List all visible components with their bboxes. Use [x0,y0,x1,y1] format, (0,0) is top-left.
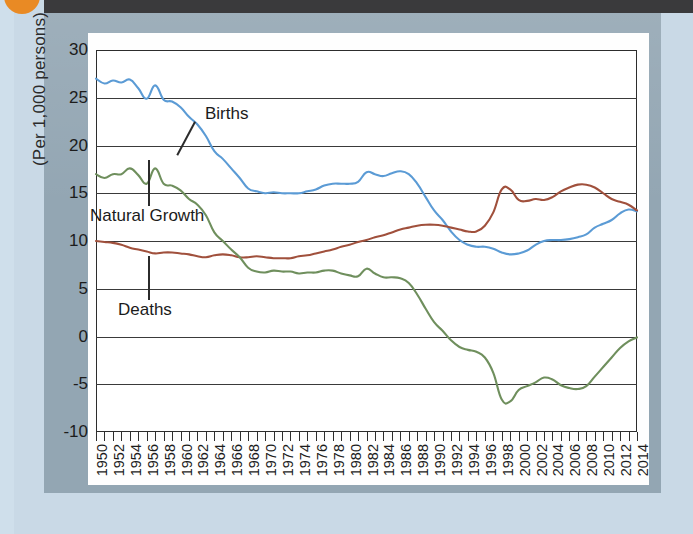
x-tick-mark-2006 [569,432,570,441]
x-tick-label-1992: 1992 [449,444,465,476]
x-tick-mark-1996 [485,432,486,441]
x-tick-mark-2004 [552,432,553,441]
x-tick-mark-1987 [409,432,410,441]
x-tick-mark-1985 [392,432,393,441]
x-tick-label-1984: 1984 [381,444,397,476]
x-tick-mark-1961 [189,432,190,441]
x-tick-mark-1982 [367,432,368,441]
x-tick-mark-1981 [358,432,359,441]
x-tick-mark-1965 [223,432,224,441]
x-tick-mark-1968 [248,432,249,441]
x-tick-label-2006: 2006 [567,444,583,476]
x-tick-mark-1975 [307,432,308,441]
x-tick-label-1970: 1970 [263,444,279,476]
x-tick-label-2004: 2004 [550,444,566,476]
annotation-natural-growth: Natural Growth [90,206,204,226]
x-tick-mark-1972 [282,432,283,441]
x-tick-label-1958: 1958 [162,444,178,476]
x-tick-mark-1978 [333,432,334,441]
x-tick-mark-2003 [544,432,545,441]
x-tick-label-1988: 1988 [415,444,431,476]
x-tick-mark-2012 [620,432,621,441]
x-tick-label-1962: 1962 [195,444,211,476]
series-line-natural-growth [96,168,637,403]
y-tick--10: -10 [63,422,88,442]
x-tick-mark-2000 [519,432,520,441]
x-tick-mark-1954 [130,432,131,441]
annotation-growth-leader [148,160,150,206]
x-tick-mark-1971 [274,432,275,441]
x-axis-ticks: 1950195219541956195819601962196419661968… [96,432,637,442]
x-tick-mark-1989 [426,432,427,441]
x-tick-mark-1959 [172,432,173,441]
x-tick-label-1966: 1966 [229,444,245,476]
x-tick-label-1980: 1980 [348,444,364,476]
y-tick-5: 5 [79,279,88,299]
x-tick-label-1986: 1986 [398,444,414,476]
x-tick-mark-2014 [637,432,638,441]
x-tick-mark-1994 [468,432,469,441]
y-tick-15: 15 [69,183,88,203]
x-tick-label-1968: 1968 [246,444,262,476]
y-tick-30: 30 [69,40,88,60]
x-tick-mark-1969 [257,432,258,441]
x-tick-label-1972: 1972 [280,444,296,476]
x-tick-mark-1957 [155,432,156,441]
x-tick-mark-1979 [341,432,342,441]
x-tick-mark-1951 [104,432,105,441]
x-tick-mark-2007 [578,432,579,441]
x-tick-mark-1974 [299,432,300,441]
x-tick-mark-1998 [502,432,503,441]
x-tick-label-1950: 1950 [94,444,110,476]
x-tick-mark-1983 [375,432,376,441]
x-tick-mark-1993 [459,432,460,441]
x-tick-mark-1980 [350,432,351,441]
x-tick-label-1998: 1998 [500,444,516,476]
x-tick-label-1960: 1960 [179,444,195,476]
x-tick-mark-1988 [417,432,418,441]
x-tick-mark-1956 [147,432,148,441]
x-tick-mark-1999 [510,432,511,441]
x-tick-mark-2001 [527,432,528,441]
x-tick-mark-1950 [96,432,97,441]
x-tick-label-2002: 2002 [534,444,550,476]
x-tick-mark-2008 [586,432,587,441]
x-tick-mark-1963 [206,432,207,441]
x-tick-label-2014: 2014 [635,444,651,476]
x-tick-mark-2005 [561,432,562,441]
x-tick-mark-2002 [536,432,537,441]
x-tick-mark-1977 [324,432,325,441]
x-tick-label-1976: 1976 [314,444,330,476]
top-dark-bar [44,0,693,13]
x-tick-mark-2009 [595,432,596,441]
x-tick-mark-1958 [164,432,165,441]
x-tick-label-1956: 1956 [145,444,161,476]
x-tick-mark-1984 [383,432,384,441]
x-tick-mark-1990 [434,432,435,441]
x-tick-mark-2013 [629,432,630,441]
y-tick--5: -5 [73,374,88,394]
x-tick-mark-1973 [290,432,291,441]
x-tick-mark-1952 [113,432,114,441]
x-tick-mark-1992 [451,432,452,441]
x-tick-label-1982: 1982 [365,444,381,476]
y-tick-20: 20 [69,136,88,156]
x-tick-mark-1970 [265,432,266,441]
data-series-svg [96,50,637,432]
y-tick-0: 0 [79,327,88,347]
x-tick-label-2000: 2000 [517,444,533,476]
y-axis-tick-labels: 302520151050-5-10 [0,50,96,432]
x-tick-label-2012: 2012 [618,444,634,476]
x-tick-mark-2010 [603,432,604,441]
x-tick-mark-1964 [214,432,215,441]
x-tick-mark-1962 [197,432,198,441]
y-tick-25: 25 [69,88,88,108]
x-tick-mark-1967 [240,432,241,441]
x-tick-label-1954: 1954 [128,444,144,476]
x-tick-mark-1955 [138,432,139,441]
annotation-deaths-leader [148,256,150,300]
plot-area [96,50,637,432]
x-tick-label-1990: 1990 [432,444,448,476]
x-tick-mark-1976 [316,432,317,441]
x-tick-label-2010: 2010 [601,444,617,476]
